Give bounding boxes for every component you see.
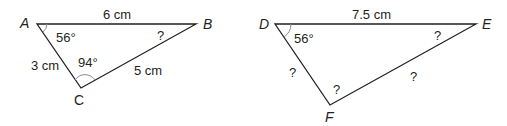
angle-c-measure: 94° bbox=[78, 55, 98, 70]
vertex-c-label: C bbox=[74, 92, 84, 108]
vertex-e-label: E bbox=[482, 16, 492, 32]
angle-f-measure: ? bbox=[333, 82, 340, 97]
side-ab-length: 6 cm bbox=[103, 7, 131, 22]
vertex-d-label: D bbox=[259, 16, 269, 32]
vertex-a-label: A bbox=[19, 15, 29, 31]
side-de-length: 7.5 cm bbox=[352, 7, 391, 22]
angle-a-measure: 56° bbox=[56, 30, 76, 45]
angle-e-measure: ? bbox=[434, 28, 441, 43]
triangle-def: D E F 7.5 cm ? ? 56° ? ? bbox=[259, 7, 492, 125]
angle-c-arc bbox=[75, 75, 95, 80]
side-ef-length: ? bbox=[410, 69, 417, 84]
side-bc-length: 5 cm bbox=[134, 63, 162, 78]
angle-a-arc bbox=[43, 24, 47, 32]
angle-b-measure: ? bbox=[157, 28, 164, 43]
vertex-f-label: F bbox=[325, 109, 335, 125]
triangle-abc: A B C 6 cm 3 cm 5 cm 56° 94° ? bbox=[19, 7, 212, 108]
similar-triangles-diagram: A B C 6 cm 3 cm 5 cm 56° 94° ? D E F 7.5… bbox=[0, 0, 507, 126]
angle-d-arc bbox=[284, 24, 291, 37]
side-df-length: ? bbox=[289, 65, 296, 80]
side-ac-length: 3 cm bbox=[31, 58, 59, 73]
vertex-b-label: B bbox=[203, 16, 212, 32]
angle-d-measure: 56° bbox=[294, 31, 314, 46]
